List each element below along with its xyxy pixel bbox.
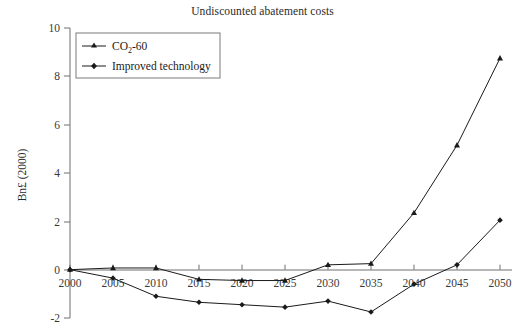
y-tick-label-4: 4: [54, 167, 60, 179]
y-tick-label-0: 0: [54, 264, 60, 276]
y-tick-label-2: 2: [54, 216, 60, 228]
data-point-marker: [153, 265, 159, 270]
chart-plot-area: 10 8 6 4 2 0 -2 Bn£ (2000) 2000200520102…: [0, 0, 525, 324]
data-point-marker: [239, 302, 245, 308]
x-tick-label-2010: 2010: [145, 277, 168, 289]
data-point-marker: [325, 298, 331, 304]
data-point-marker: [368, 309, 374, 315]
legend-label-co2-main: CO: [112, 40, 128, 52]
data-point-marker: [153, 293, 159, 299]
legend-entry-co2-60[interactable]: CO2-60: [82, 40, 148, 55]
x-tick-label-2050: 2050: [489, 277, 512, 289]
y-tick-label-neg2: -2: [50, 312, 60, 324]
x-tick-label-2000: 2000: [59, 277, 82, 289]
data-point-marker: [196, 299, 202, 305]
y-axis-ticks: [64, 28, 70, 318]
data-point-marker: [454, 142, 460, 147]
series-line-co2-60: [70, 58, 500, 280]
x-tick-label-2045: 2045: [446, 277, 469, 289]
data-point-marker: [282, 304, 288, 310]
x-axis-ticks: [70, 265, 500, 270]
legend-label-improved-technology: Improved technology: [112, 60, 211, 73]
x-tick-label-2035: 2035: [360, 277, 383, 289]
triangle-marker-icon: [91, 43, 97, 48]
diamond-marker-icon: [91, 63, 97, 69]
data-point-marker: [497, 55, 503, 60]
x-tick-label-2030: 2030: [317, 277, 340, 289]
chart-legend: CO2-60 Improved technology: [76, 33, 220, 78]
legend-label-co2-60: CO2-60: [112, 40, 148, 55]
y-tick-label-8: 8: [54, 70, 60, 82]
series-co2-60: [67, 55, 503, 283]
legend-entry-improved-technology[interactable]: Improved technology: [82, 60, 211, 73]
legend-label-co2-tail: -60: [132, 40, 148, 52]
chart-figure: Undiscounted abatement costs 10 8 6 4 2 …: [0, 0, 525, 324]
y-axis-title: Bn£ (2000): [16, 148, 29, 201]
y-tick-label-10: 10: [49, 22, 61, 34]
y-tick-label-6: 6: [54, 119, 60, 131]
data-point-marker: [110, 265, 116, 270]
